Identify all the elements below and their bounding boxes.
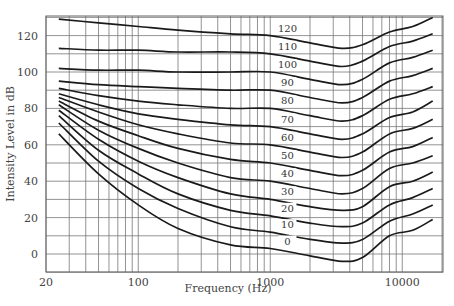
loudness-curve-80: [59, 87, 433, 122]
curve-label-80: 80: [281, 95, 294, 106]
x-axis-label: Frequency (Hz): [185, 282, 272, 295]
loudness-curve-20: [59, 116, 433, 227]
curve-label-60: 60: [281, 132, 294, 143]
equal-loudness-chart: 0102030405060708090100110120 02040608010…: [0, 0, 454, 306]
curve-label-90: 90: [281, 77, 294, 88]
y-tick-label: 40: [24, 175, 38, 188]
x-tick-label: 100: [128, 276, 149, 289]
curve-label-40: 40: [281, 168, 294, 179]
curve-label-0: 0: [284, 236, 290, 247]
curve-label-110: 110: [278, 41, 297, 52]
x-tick-label: 20: [39, 276, 53, 289]
y-tick-label: 0: [31, 248, 38, 261]
y-tick-label: 100: [17, 66, 38, 79]
loudness-curve-100: [59, 50, 433, 84]
curve-label-100: 100: [278, 59, 297, 70]
loudness-curve-10: [59, 123, 433, 243]
curve-label-30: 30: [281, 186, 294, 197]
y-tick-label: 80: [24, 102, 38, 115]
y-tick-label: 120: [17, 30, 38, 43]
x-tick-label: 10000: [385, 276, 420, 289]
y-axis-label: Intensity Level in dB: [4, 86, 17, 202]
y-tick-label: 60: [24, 139, 38, 152]
loudness-curve-0: [59, 134, 433, 262]
curve-label-120: 120: [278, 23, 297, 34]
curve-label-50: 50: [281, 150, 294, 161]
curve-label-70: 70: [281, 114, 294, 125]
curve-label-20: 20: [281, 203, 294, 214]
loudness-curve-120: [59, 17, 433, 48]
y-tick-label: 20: [24, 212, 38, 225]
y-axis-ticks: 020406080100120: [17, 30, 38, 261]
curve-label-10: 10: [281, 219, 294, 230]
loudness-curve-70: [59, 94, 433, 140]
